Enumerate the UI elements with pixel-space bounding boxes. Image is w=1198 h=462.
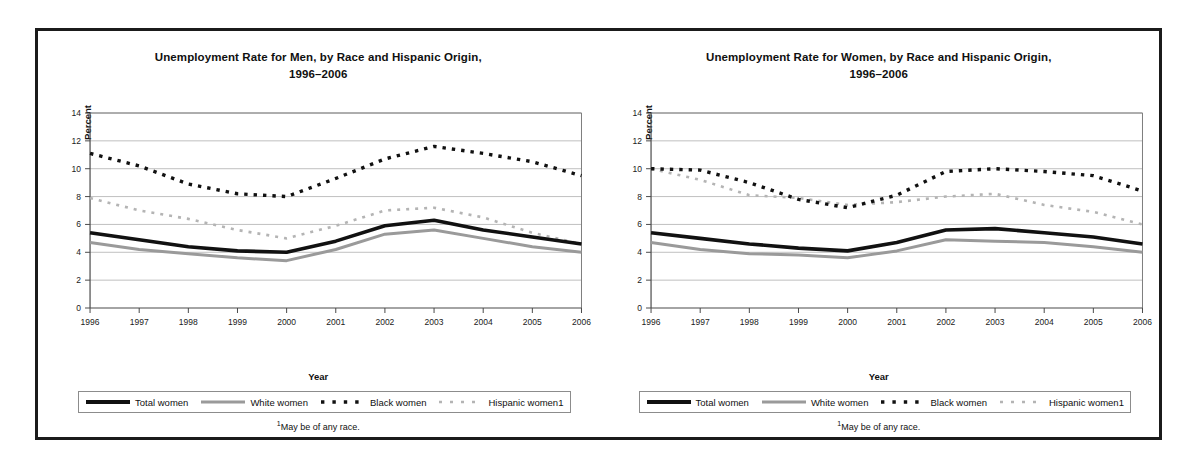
chart-title-men-line1: Unemployment Rate for Men, by Race and H…	[155, 51, 482, 63]
legend-label-hispanic: Hispanic women1	[1049, 397, 1124, 408]
svg-text:2001: 2001	[887, 317, 906, 327]
svg-text:2: 2	[76, 275, 81, 285]
svg-text:2001: 2001	[326, 317, 345, 327]
legend-item-black[interactable]: Black women	[320, 397, 427, 408]
legend-label-total: Total women	[135, 397, 188, 408]
svg-text:2002: 2002	[936, 317, 955, 327]
legend-swatch-total-solid-icon	[85, 397, 131, 407]
footnote-text-women: May be of any race.	[841, 422, 920, 432]
svg-text:2004: 2004	[474, 317, 493, 327]
legend-item-black[interactable]: Black women	[880, 397, 987, 408]
svg-text:6: 6	[76, 219, 81, 229]
svg-text:2000: 2000	[277, 317, 296, 327]
legend-label-black: Black women	[370, 397, 427, 408]
svg-text:0: 0	[76, 303, 81, 313]
legend-swatch-hispanic-dashed-icon	[999, 397, 1045, 407]
legend-swatch-hispanic-dashed-icon	[438, 397, 484, 407]
svg-text:12: 12	[72, 136, 82, 146]
svg-text:10: 10	[72, 164, 82, 174]
plot-area-women: 0246810121419961997199819992000200120022…	[599, 105, 1160, 345]
legend-swatch-white-solid-icon	[200, 397, 246, 407]
svg-text:2000: 2000	[838, 317, 857, 327]
svg-text:1996: 1996	[641, 317, 660, 327]
svg-text:8: 8	[76, 192, 81, 202]
svg-text:2003: 2003	[425, 317, 444, 327]
legend-item-total[interactable]: Total women	[646, 397, 749, 408]
line-chart-men: 0246810121419961997199819992000200120022…	[38, 105, 599, 345]
legend-item-white[interactable]: White women	[200, 397, 308, 408]
svg-text:2005: 2005	[523, 317, 542, 327]
svg-text:14: 14	[72, 108, 82, 118]
svg-text:12: 12	[632, 136, 642, 146]
chart-title-men-line2: 1996–2006	[38, 66, 599, 83]
plot-area-men: 0246810121419961997199819992000200120022…	[38, 105, 599, 345]
svg-text:6: 6	[637, 219, 642, 229]
svg-text:2002: 2002	[375, 317, 394, 327]
line-chart-women: 0246810121419961997199819992000200120022…	[599, 105, 1160, 345]
legend-label-white: White women	[250, 397, 308, 408]
figure-frame: Unemployment Rate for Men, by Race and H…	[35, 28, 1162, 440]
panel-men: Unemployment Rate for Men, by Race and H…	[38, 31, 599, 437]
legend-item-total[interactable]: Total women	[85, 397, 188, 408]
footnote-women: 1May be of any race.	[599, 420, 1160, 432]
legend-label-total: Total women	[696, 397, 749, 408]
svg-text:2006: 2006	[1133, 317, 1152, 327]
svg-text:14: 14	[632, 108, 642, 118]
chart-title-women-line1: Unemployment Rate for Women, by Race and…	[706, 51, 1051, 63]
svg-text:1998: 1998	[739, 317, 758, 327]
footnote-men: 1May be of any race.	[38, 420, 599, 432]
legend-item-hispanic[interactable]: Hispanic women1	[999, 397, 1124, 408]
svg-text:2: 2	[637, 275, 642, 285]
svg-text:1999: 1999	[789, 317, 808, 327]
svg-text:1997: 1997	[690, 317, 709, 327]
x-axis-title-men: Year	[38, 371, 599, 382]
svg-text:10: 10	[632, 164, 642, 174]
svg-text:4: 4	[637, 247, 642, 257]
chart-title-men: Unemployment Rate for Men, by Race and H…	[38, 49, 599, 83]
legend-swatch-total-solid-icon	[646, 397, 692, 407]
svg-text:2006: 2006	[572, 317, 591, 327]
svg-text:1999: 1999	[228, 317, 247, 327]
svg-text:1997: 1997	[130, 317, 149, 327]
svg-text:2005: 2005	[1083, 317, 1102, 327]
svg-text:1998: 1998	[179, 317, 198, 327]
svg-text:0: 0	[637, 303, 642, 313]
legend-item-hispanic[interactable]: Hispanic women1	[438, 397, 563, 408]
footnote-text-men: May be of any race.	[281, 422, 360, 432]
chart-title-women: Unemployment Rate for Women, by Race and…	[599, 49, 1160, 83]
svg-text:4: 4	[76, 247, 81, 257]
panel-women: Unemployment Rate for Women, by Race and…	[599, 31, 1160, 437]
legend-men: Total women White women Black women	[78, 391, 571, 413]
legend-swatch-black-dashed-icon	[880, 397, 926, 407]
svg-text:1996: 1996	[81, 317, 100, 327]
legend-swatch-white-solid-icon	[761, 397, 807, 407]
legend-label-white: White women	[811, 397, 869, 408]
x-axis-title-women: Year	[599, 371, 1160, 382]
svg-text:2004: 2004	[1034, 317, 1053, 327]
legend-women: Total women White women Black women	[639, 391, 1132, 413]
legend-item-white[interactable]: White women	[761, 397, 869, 408]
chart-title-women-line2: 1996–2006	[599, 66, 1160, 83]
svg-text:8: 8	[637, 192, 642, 202]
legend-label-hispanic: Hispanic women1	[488, 397, 563, 408]
legend-swatch-black-dashed-icon	[320, 397, 366, 407]
chart-panels: Unemployment Rate for Men, by Race and H…	[38, 31, 1159, 437]
svg-text:2003: 2003	[985, 317, 1004, 327]
legend-label-black: Black women	[930, 397, 987, 408]
